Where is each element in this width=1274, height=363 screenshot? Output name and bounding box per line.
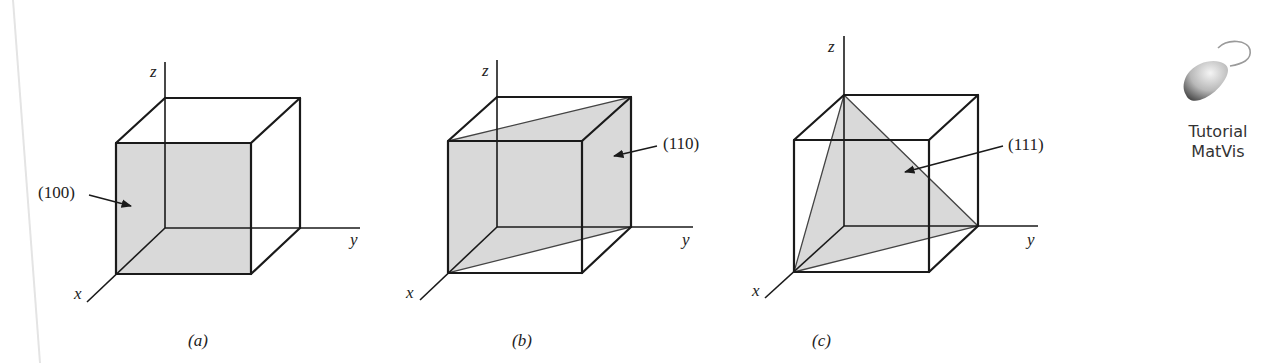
z-axis-label: z <box>827 37 835 56</box>
z-axis-label: z <box>149 62 157 81</box>
caption-b: (b) <box>512 331 532 350</box>
plane-label-111: (111) <box>1008 135 1044 154</box>
mouse-icon[interactable] <box>1184 41 1251 100</box>
x-axis-label: x <box>751 281 760 300</box>
plane-111-arrow <box>905 146 1003 172</box>
matvis-label: MatVis <box>1178 142 1258 162</box>
y-axis-label: y <box>348 230 358 249</box>
miller-indices-figure: z y x (100) (a) z y x (110) (b) <box>0 0 1274 363</box>
page-gutter-shadow <box>13 0 40 363</box>
caption-a: (a) <box>188 331 208 350</box>
x-axis-label: x <box>73 284 82 303</box>
tutorial-label: Tutorial <box>1178 122 1258 142</box>
z-axis-label: z <box>481 61 489 80</box>
tutorial-matvis-link[interactable]: Tutorial MatVis <box>1178 122 1258 162</box>
panel-c: z y x (111) (c) <box>751 36 1044 350</box>
y-axis-label: y <box>680 230 690 249</box>
y-axis-label: y <box>1025 230 1035 249</box>
x-axis-label: x <box>405 283 414 302</box>
caption-c: (c) <box>812 331 831 350</box>
plane-label-110: (110) <box>663 134 699 153</box>
panel-a: z y x (100) (a) <box>38 62 360 350</box>
panel-b: z y x (110) (b) <box>405 60 699 350</box>
plane-label-100: (100) <box>38 183 75 202</box>
